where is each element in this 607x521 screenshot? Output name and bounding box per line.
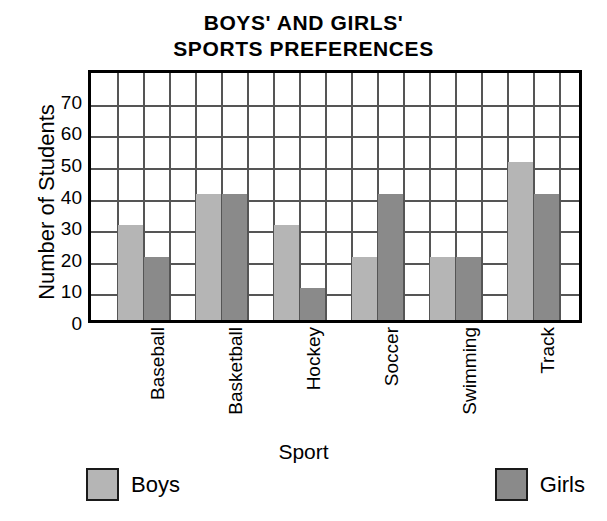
- x-tick-label: Baseball: [147, 327, 169, 400]
- x-tick-label: Swimming: [459, 327, 481, 415]
- y-tick-label: 50: [34, 155, 82, 174]
- legend-item-boys: Boys: [86, 468, 180, 501]
- chart-title-line-2: SPORTS PREFERENCES: [0, 36, 607, 62]
- x-tick-label: Soccer: [381, 327, 403, 386]
- plot-area: [88, 70, 582, 323]
- bars-container: [91, 73, 579, 320]
- bar-chart: BOYS' AND GIRLS' SPORTS PREFERENCES Numb…: [0, 0, 607, 521]
- chart-title-line-1: BOYS' AND GIRLS': [0, 10, 607, 36]
- legend-label-girls: Girls: [540, 472, 585, 498]
- legend-label-boys: Boys: [131, 472, 180, 498]
- y-tick-label: 40: [34, 187, 82, 206]
- y-tick-label: 60: [34, 124, 82, 143]
- x-tick-label: Hockey: [303, 327, 325, 390]
- bar-boys-hockey: [274, 225, 299, 320]
- y-tick-label: 30: [34, 219, 82, 238]
- bar-girls-track: [534, 194, 559, 321]
- bar-boys-soccer: [352, 257, 377, 320]
- bar-girls-baseball: [144, 257, 169, 320]
- y-tick-label: 0: [34, 314, 82, 333]
- legend-swatch-boys: [86, 468, 119, 501]
- y-tick-label: 20: [34, 250, 82, 269]
- y-axis-tick-labels: 010203040506070: [34, 70, 82, 323]
- legend: Boys Girls: [0, 468, 607, 512]
- y-tick-label: 10: [34, 282, 82, 301]
- chart-title: BOYS' AND GIRLS' SPORTS PREFERENCES: [0, 10, 607, 62]
- bar-boys-swimming: [430, 257, 455, 320]
- bar-girls-swimming: [456, 257, 481, 320]
- bar-boys-baseball: [118, 225, 143, 320]
- bar-girls-soccer: [378, 194, 403, 321]
- y-tick-label: 70: [34, 92, 82, 111]
- x-axis-category-labels: BaseballBasketballHockeySoccerSwimmingTr…: [88, 323, 582, 443]
- legend-item-girls: Girls: [495, 468, 585, 501]
- x-tick-label: Basketball: [225, 327, 247, 415]
- legend-swatch-girls: [495, 468, 528, 501]
- bar-boys-basketball: [196, 194, 221, 321]
- x-axis-title: Sport: [0, 440, 607, 464]
- x-tick-label: Track: [537, 327, 559, 374]
- bar-boys-track: [508, 162, 533, 320]
- bar-girls-hockey: [300, 288, 325, 320]
- bar-girls-basketball: [222, 194, 247, 321]
